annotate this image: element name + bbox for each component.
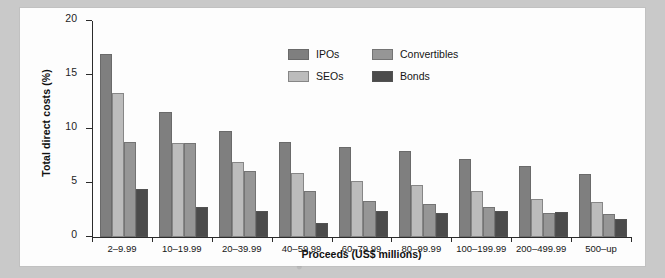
- bar-convertibles: [543, 213, 555, 237]
- bar-group: [219, 21, 268, 237]
- x-tick: [92, 237, 93, 242]
- bar-seos: [591, 202, 603, 237]
- bar-convertibles: [483, 207, 495, 237]
- x-tick: [212, 237, 213, 242]
- x-tick: [511, 237, 512, 242]
- bar-convertibles: [603, 214, 615, 237]
- bar-seos: [172, 143, 184, 237]
- legend-swatch-icon: [372, 49, 393, 60]
- bar-ipos: [519, 166, 531, 237]
- bar-group: [519, 21, 568, 237]
- y-axis-title: Total direct costs (%): [38, 8, 54, 237]
- chart-card: Total direct costs (%) 05101520 2–9.9910…: [20, 8, 645, 266]
- bar-seos: [291, 173, 303, 237]
- chart-legend: IPOsConvertiblesSEOsBonds: [288, 43, 503, 87]
- legend-swatch-icon: [372, 71, 393, 82]
- bar-convertibles: [184, 143, 196, 237]
- y-tick: 20: [86, 20, 92, 21]
- bar-bonds: [376, 211, 388, 237]
- legend-swatch-icon: [288, 49, 309, 60]
- bar-bonds: [495, 211, 507, 237]
- bar-convertibles: [124, 142, 136, 237]
- y-axis-title-text: Total direct costs (%): [40, 69, 52, 177]
- legend-label: Convertibles: [400, 48, 458, 60]
- bar-seos: [471, 191, 483, 237]
- bar-bonds: [615, 219, 627, 237]
- bar-bonds: [256, 211, 268, 237]
- y-tick-label: 0: [71, 228, 77, 240]
- bar-convertibles: [244, 171, 256, 237]
- y-tick: 5: [86, 182, 92, 183]
- y-tick: 10: [86, 128, 92, 129]
- x-tick: [272, 237, 273, 242]
- bar-ipos: [159, 112, 171, 237]
- figure-container: Total direct costs (%) 05101520 2–9.9910…: [0, 0, 665, 278]
- bar-convertibles: [423, 204, 435, 237]
- bar-bonds: [136, 189, 148, 237]
- legend-label: Bonds: [400, 70, 430, 82]
- bar-bonds: [316, 223, 328, 237]
- bar-group: [579, 21, 628, 237]
- legend-item-seos[interactable]: SEOs: [288, 70, 372, 82]
- bar-ipos: [339, 147, 351, 237]
- y-axis-line: [92, 21, 93, 238]
- bar-group: [159, 21, 208, 237]
- x-tick: [451, 237, 452, 242]
- legend-item-bonds[interactable]: Bonds: [372, 70, 503, 82]
- bar-ipos: [219, 131, 231, 237]
- bar-seos: [531, 199, 543, 237]
- y-tick-label: 20: [65, 12, 77, 24]
- bar-ipos: [399, 151, 411, 237]
- y-tick-label: 10: [65, 120, 77, 132]
- x-tick: [391, 237, 392, 242]
- bar-ipos: [100, 54, 112, 237]
- legend-label: IPOs: [316, 48, 339, 60]
- legend-label: SEOs: [316, 70, 343, 82]
- legend-item-convertibles[interactable]: Convertibles: [372, 48, 503, 60]
- x-tick: [152, 237, 153, 242]
- bar-convertibles: [304, 191, 316, 237]
- y-tick-label: 15: [65, 66, 77, 78]
- bar-seos: [411, 185, 423, 237]
- x-axis-line: [92, 237, 631, 238]
- bar-convertibles: [363, 201, 375, 237]
- x-tick: [571, 237, 572, 242]
- bar-bonds: [555, 212, 567, 237]
- bar-bonds: [436, 213, 448, 237]
- bar-seos: [351, 181, 363, 237]
- bar-bonds: [196, 207, 208, 237]
- x-axis-title: Proceeds (US$ millions): [92, 248, 631, 260]
- y-tick: 15: [86, 74, 92, 75]
- legend-swatch-icon: [288, 71, 309, 82]
- bar-seos: [112, 93, 124, 237]
- bar-seos: [232, 162, 244, 237]
- bar-ipos: [459, 159, 471, 237]
- x-tick: [631, 237, 632, 242]
- y-tick-label: 5: [71, 174, 77, 186]
- legend-item-ipos[interactable]: IPOs: [288, 48, 372, 60]
- x-tick: [332, 237, 333, 242]
- bar-group: [100, 21, 149, 237]
- bar-ipos: [579, 174, 591, 237]
- bar-ipos: [279, 142, 291, 237]
